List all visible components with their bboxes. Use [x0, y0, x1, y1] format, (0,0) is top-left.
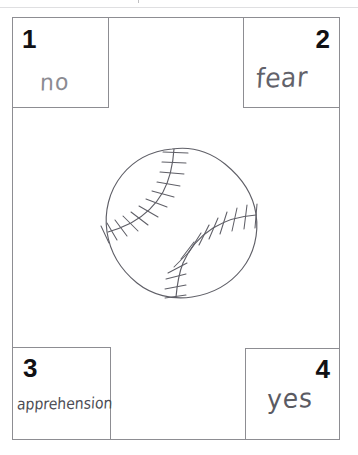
scan-artifact-smudge [138, 0, 168, 7]
quadrant-box-4[interactable]: 4 yes [245, 348, 340, 440]
baseball-stitches-lower [165, 204, 257, 298]
quadrant-number-1: 1 [22, 26, 36, 52]
quadrant-box-1[interactable]: 1 no [12, 17, 109, 108]
baseball-stitches-upper [101, 152, 188, 243]
scan-artifact-edge-line [0, 7, 358, 8]
quadrant-number-4: 4 [316, 356, 330, 382]
quadrant-answer-4: yes [266, 382, 313, 414]
baseball-drawing [100, 142, 264, 304]
quadrant-answer-3: apprehension [16, 394, 112, 413]
quadrant-number-3: 3 [23, 355, 37, 381]
quadrant-answer-2: fear [255, 61, 309, 94]
quadrant-box-3[interactable]: 3 apprehension [12, 347, 111, 440]
quadrant-number-2: 2 [316, 26, 330, 52]
quadrant-box-2[interactable]: 2 fear [243, 17, 340, 108]
quadrant-answer-1: no [40, 69, 70, 96]
